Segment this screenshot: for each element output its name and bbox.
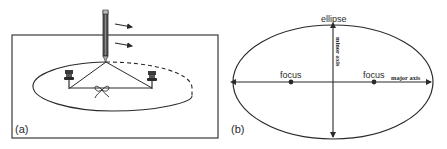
drawn-ellipse-solid: [33, 62, 192, 111]
string: [69, 62, 152, 88]
pencil-icon: [103, 10, 108, 62]
motion-arrow-icon: [115, 24, 132, 27]
panel-a-label: (a): [15, 123, 28, 135]
major-axis-label: major axis: [391, 74, 421, 81]
minor-axis-label: minor axis: [335, 37, 342, 67]
panel-b: ellipse focus focus major axis minor axi…: [231, 14, 433, 139]
panel-b-label: (b): [231, 123, 244, 135]
figure: (a) ellipse focus focus major axis minor…: [0, 0, 447, 149]
focus-left-label: focus: [280, 70, 302, 80]
focus-right-dot: [372, 80, 377, 85]
focus-right-label: focus: [363, 70, 385, 80]
drawing-board: [12, 35, 218, 138]
motion-arrow-icon: [115, 43, 132, 46]
panel-a: (a): [12, 10, 218, 138]
focus-left-dot: [289, 80, 294, 85]
ellipse-label: ellipse: [321, 14, 347, 24]
